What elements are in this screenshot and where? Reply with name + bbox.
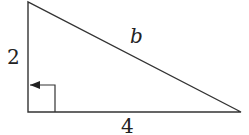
- right-triangle: [28, 2, 241, 112]
- vertical-leg-label: 2: [7, 45, 20, 69]
- triangle-diagram: 2 4 b: [0, 0, 249, 135]
- horizontal-leg-label: 4: [121, 114, 134, 135]
- right-angle-marker: [30, 85, 55, 112]
- hypotenuse-label: b: [130, 24, 143, 48]
- arrowhead-icon: [30, 81, 40, 89]
